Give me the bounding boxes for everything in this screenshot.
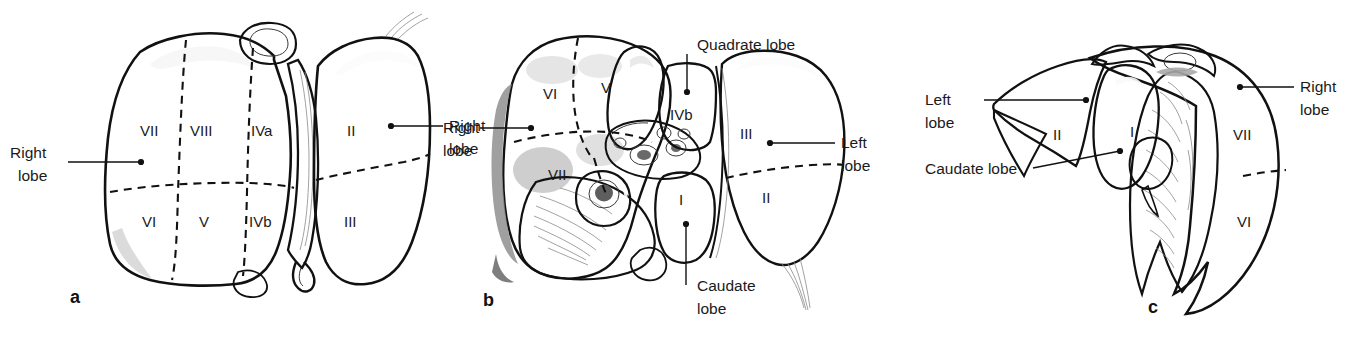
panel-b-callout-quadrate-lobe [684,54,690,95]
panel-b-letter: b [483,290,494,310]
panel-b-callout-caudate-lobe [683,221,689,285]
panel-a: Right lobe Right lobe VII VIII IVa II VI… [10,12,486,307]
panel-b-caudate-lobe-label-line2: lobe [697,300,726,317]
panel-c-left-lobe-shape [993,59,1106,176]
panel-c-letter: c [1148,297,1158,317]
panel-b-callout-left-lobe [767,140,835,146]
panel-a-segment-iii: III [344,213,357,230]
panel-a-right-lobe-shape [105,33,291,285]
panel-a-segment-ii: II [347,122,355,139]
panel-c-segment-i: I [1130,123,1134,140]
panel-b-inferior-blob [631,248,666,281]
panel-a-segment-viii: VIII [190,122,213,139]
panel-a-segment-vi: VI [142,213,156,230]
panel-c-left-lobe-label-line1: Left [925,91,952,108]
panel-b-caudate-lobe-label-line1: Caudate [697,277,756,294]
liver-anatomy-figure: Right lobe Right lobe VII VIII IVa II VI… [0,0,1363,345]
panel-a-segment-divisions [110,40,430,280]
panel-b-segment-ivb: IVb [670,106,693,123]
figure-canvas: Right lobe Right lobe VII VIII IVa II VI… [0,0,1363,345]
panel-b-segment-vii: VII [548,166,566,183]
panel-a-segment-ivb: IVb [249,213,272,230]
panel-b-segment-ii: II [762,189,770,206]
panel-b-left-lobe-shape [721,51,845,265]
panel-c-callout-right-lobe [1237,84,1294,90]
panel-c: Left lobe Caudate lobe Right lobe II I V… [925,45,1337,317]
panel-a-segment-iva: IVa [251,122,273,139]
panel-a-ivc-stump [240,23,296,64]
panel-c-bare-area [1130,72,1217,294]
panel-b-caudate-lobe-shape [655,173,714,263]
panel-b-right-lobe-label-line2: lobe [443,142,472,159]
panel-a-right-lobe-left-label-line2: lobe [18,167,47,184]
panel-c-caudate-lobe-label: Caudate lobe [925,160,1017,177]
panel-b-right-lobe-label-line1: Right [443,119,480,136]
panel-c-right-lobe-label-line2: lobe [1300,101,1329,118]
panel-b-segment-v: V [601,79,611,96]
panel-a-right-lobe-left-label-line1: Right [10,144,47,161]
panel-b-segment-i: I [679,191,683,208]
panel-a-segment-v: V [199,213,209,230]
panel-b-segment-vi: VI [543,85,557,102]
panel-a-callout-right-lobe-right [388,123,443,129]
panel-c-adrenal-impression [1130,138,1173,216]
panel-c-segment-vi: VI [1237,213,1251,230]
panel-a-segment-vii: VII [140,122,158,139]
panel-c-segment-vii: VII [1233,126,1251,143]
panel-b-segment-iii: III [740,125,753,142]
panel-c-left-lobe-label-line2: lobe [925,114,954,131]
panel-c-right-lobe-label-line1: Right [1300,78,1337,95]
panel-b: Right lobe Quadrate lobe Left lobe Cauda… [443,36,870,317]
panel-a-superior-strands [386,12,428,39]
panel-b-quadrate-lobe-label: Quadrate lobe [697,36,795,53]
panel-b-left-lobe-label-line2: lobe [841,157,870,174]
panel-b-left-lobe-label-line1: Left [841,134,868,151]
panel-c-segment-ii: II [1053,126,1061,143]
panel-a-letter: a [70,287,81,307]
